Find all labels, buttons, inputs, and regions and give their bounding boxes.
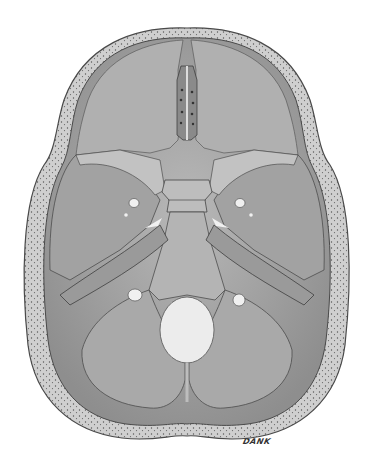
skull-base-illustration <box>0 0 375 462</box>
artist-signature: DANK <box>242 437 272 446</box>
foramen-spinosum-left <box>124 213 128 217</box>
foramen-ovale-right <box>235 199 245 208</box>
foramen-magnum <box>160 297 214 363</box>
sella-turcica <box>162 180 212 212</box>
foramen-spinosum-right <box>249 213 253 217</box>
foramen-ovale-left <box>129 199 139 208</box>
jugular-foramen-left <box>128 289 142 301</box>
jugular-foramen-right <box>233 294 245 306</box>
